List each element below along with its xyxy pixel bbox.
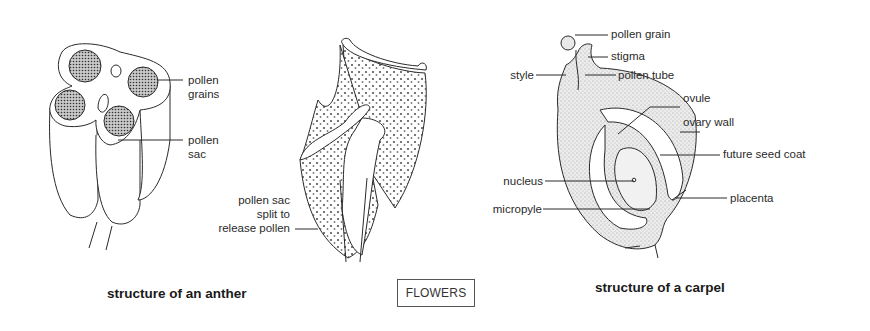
label-pollen-tube: pollen tube: [618, 68, 674, 82]
label-pollen-sac: pollen sac: [188, 133, 219, 161]
label-pollen-sac-split: pollen sac split to release pollen: [210, 193, 290, 235]
caption-carpel: structure of a carpel: [595, 280, 725, 295]
anther-drawing: [50, 44, 183, 250]
dehisced-anther-drawing: [295, 38, 426, 262]
section-tag-flowers: FLOWERS: [397, 279, 475, 307]
label-style: style: [490, 68, 534, 82]
label-ovule: ovule: [683, 91, 711, 105]
caption-anther: structure of an anther: [107, 286, 247, 301]
label-nucleus: nucleus: [480, 174, 543, 188]
label-pollen-grain: pollen grain: [611, 27, 670, 41]
label-future-seed-coat: future seed coat: [723, 147, 805, 161]
label-placenta: placenta: [730, 191, 773, 205]
label-stigma: stigma: [611, 49, 645, 63]
label-ovary-wall: ovary wall: [683, 115, 734, 129]
label-micropyle: micropyle: [480, 202, 542, 216]
label-pollen-grains: pollen grains: [188, 73, 219, 101]
